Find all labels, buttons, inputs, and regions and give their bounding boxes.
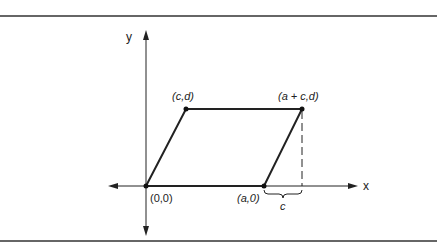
vertex-acd [300, 107, 305, 112]
parallelogram-diagram: y x (0,0) (a,0) (c,d) (a + c,d) c [0, 0, 437, 246]
label-a0: (a,0) [237, 192, 260, 204]
diagram-canvas [0, 0, 437, 246]
x-arrow-left-icon [108, 183, 118, 189]
vertex-cd [184, 107, 189, 112]
y-arrow-up-icon [143, 30, 149, 40]
vertex-a0 [262, 184, 267, 189]
parallelogram [146, 109, 302, 186]
vertex-origin [144, 184, 149, 189]
x-arrow-right-icon [348, 183, 358, 189]
brace-label: c [280, 200, 286, 212]
label-origin: (0,0) [150, 192, 173, 204]
y-axis-label: y [126, 30, 132, 44]
label-cd: (c,d) [172, 90, 194, 102]
brace [264, 190, 302, 198]
label-acd: (a + c,d) [278, 90, 319, 102]
x-axis-label: x [363, 179, 369, 193]
y-arrow-down-icon [143, 226, 149, 236]
